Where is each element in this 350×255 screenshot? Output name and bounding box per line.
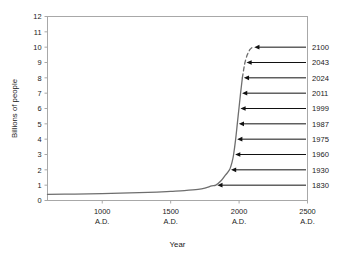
y-tick-label: 6 — [37, 104, 41, 113]
population-growth-chart: 0123456789101112 1000A.D.1500A.D.2000A.D… — [0, 0, 350, 255]
x-tick-sublabel: A.D. — [95, 217, 109, 226]
y-tick-label: 10 — [33, 43, 41, 52]
annotation-year-label: 2024 — [312, 74, 329, 83]
x-axis-title: Year — [170, 240, 186, 249]
annotation-year-label: 1830 — [312, 181, 329, 190]
annotation-year-label: 2043 — [312, 58, 329, 67]
x-tick-sublabel: A.D. — [300, 217, 314, 226]
y-tick-label: 2 — [37, 166, 41, 175]
y-tick-label: 8 — [37, 74, 41, 83]
annotation-year-label: 1975 — [312, 135, 329, 144]
x-tick-sublabel: A.D. — [163, 217, 177, 226]
y-tick-label: 0 — [37, 196, 41, 205]
y-tick-label: 11 — [34, 28, 42, 37]
x-axis-ticks: 1000A.D.1500A.D.2000A.D.2500A.D. — [94, 201, 316, 226]
x-tick-label: 1000 — [94, 207, 110, 216]
x-tick-sublabel: A.D. — [232, 217, 246, 226]
y-axis-ticks: 0123456789101112 — [33, 12, 47, 205]
y-tick-label: 5 — [37, 120, 41, 129]
y-axis-title: Billions of people — [10, 79, 19, 138]
x-tick-label: 2500 — [299, 207, 315, 216]
y-tick-label: 1 — [37, 181, 41, 190]
y-tick-label: 9 — [37, 58, 41, 67]
annotation-year-label: 1960 — [312, 150, 329, 159]
y-tick-label: 12 — [33, 12, 41, 21]
annotation-year-label: 1987 — [312, 120, 329, 129]
chart-canvas: 0123456789101112 1000A.D.1500A.D.2000A.D… — [0, 0, 350, 255]
x-tick-label: 1500 — [162, 207, 178, 216]
annotation-year-label: 2100 — [312, 43, 329, 52]
annotation-year-label: 1930 — [312, 166, 329, 175]
annotation-year-label: 1999 — [312, 104, 329, 113]
y-tick-label: 4 — [37, 135, 41, 144]
y-tick-label: 7 — [37, 89, 41, 98]
x-tick-label: 2000 — [231, 207, 247, 216]
y-tick-label: 3 — [37, 150, 41, 159]
annotation-year-label: 2011 — [312, 89, 328, 98]
